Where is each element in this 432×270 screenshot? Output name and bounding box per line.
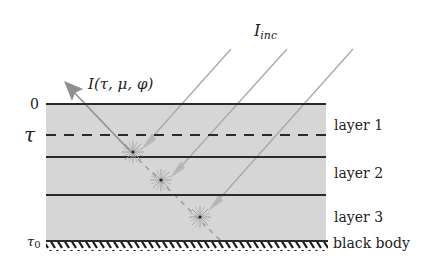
scattering-star-1-icon xyxy=(122,141,144,163)
outgoing-intensity-label: I(τ, μ, φ) xyxy=(87,75,153,93)
layer-2-label: layer 2 xyxy=(334,165,383,181)
tau-level-label: τ xyxy=(24,123,36,147)
black-body-hatching xyxy=(46,242,328,251)
tau-bottom-label: τ0 xyxy=(27,234,41,250)
tau-top-label: 0 xyxy=(30,96,39,112)
atmosphere-slab xyxy=(46,104,326,241)
black-body-label: black body xyxy=(333,235,410,251)
scattering-star-2-icon xyxy=(150,169,172,191)
layer-1-label: layer 1 xyxy=(334,117,383,133)
incident-intensity-label: Iinc xyxy=(253,21,277,42)
scattering-star-3-icon xyxy=(189,206,211,228)
radiative-transfer-diagram: Iinc I(τ, μ, φ) 0 τ τ0 layer 1 layer 2 l… xyxy=(0,0,432,270)
layer-3-label: layer 3 xyxy=(334,209,383,225)
